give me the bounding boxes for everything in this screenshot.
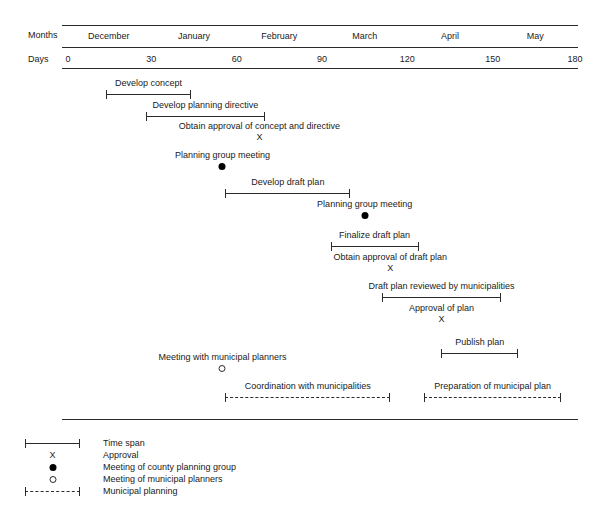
- months-axis-label: Months: [28, 30, 58, 41]
- task-label-approval-of-plan-9: Approval of plan: [409, 303, 474, 314]
- legend-label-time-span: Time span: [103, 438, 145, 449]
- axis-rule-top: [62, 25, 578, 26]
- county-meeting-marker-5[interactable]: [361, 212, 368, 219]
- task-label-planning-group-meeting-5: Planning group meeting: [317, 199, 412, 210]
- approval-marker-2[interactable]: X: [256, 132, 262, 142]
- task-bar-finalize-draft-plan-6[interactable]: [331, 242, 419, 251]
- legend-bar-cap-left: [25, 439, 26, 448]
- month-label-march: March: [352, 31, 377, 42]
- task-label-finalize-draft-plan-6: Finalize draft plan: [339, 230, 410, 241]
- days-axis-label: Days: [28, 54, 49, 65]
- county-meeting-marker-3[interactable]: [219, 163, 226, 170]
- bar-line: [225, 193, 350, 194]
- bar-cap-right: [190, 90, 191, 99]
- task-label-obtain-approval-of-draft-plan-7: Obtain approval of draft plan: [333, 252, 447, 263]
- bar-cap-left: [382, 293, 383, 302]
- day-tick-180: 180: [567, 54, 582, 65]
- bar-line: [146, 116, 265, 117]
- legend-label-municipal-planning: Municipal planning: [103, 486, 178, 497]
- legend-symbol-dashed-time-span: [25, 487, 80, 496]
- municipal-meeting-marker-11[interactable]: [219, 365, 226, 372]
- month-label-january: January: [178, 31, 210, 42]
- legend-bar-cap-left: [25, 487, 26, 496]
- bar-cap-right: [560, 393, 561, 402]
- bar-cap-left: [225, 393, 226, 402]
- legend-label-meeting-of-county-planning-group: Meeting of county planning group: [103, 462, 236, 473]
- bar-cap-left: [424, 393, 425, 402]
- approval-marker-7[interactable]: X: [387, 263, 393, 273]
- axis-rule-middle: [62, 47, 578, 48]
- task-label-develop-concept-0: Develop concept: [115, 78, 182, 89]
- bar-line: [424, 397, 561, 398]
- bar-cap-right: [500, 293, 501, 302]
- month-label-may: May: [527, 31, 544, 42]
- bar-cap-left: [331, 242, 332, 251]
- month-label-april: April: [441, 31, 459, 42]
- task-bar-develop-draft-plan-4[interactable]: [225, 189, 350, 198]
- task-label-coordination-with-municipalities-12: Coordination with municipalities: [245, 381, 371, 392]
- bar-line: [331, 246, 419, 247]
- approval-marker-9[interactable]: X: [438, 314, 444, 324]
- day-tick-0: 0: [65, 54, 70, 65]
- task-bar-publish-plan-10[interactable]: [441, 349, 518, 358]
- month-label-december: December: [88, 31, 130, 42]
- bar-cap-right: [264, 112, 265, 121]
- bar-cap-left: [146, 112, 147, 121]
- task-label-preparation-of-municipal-plan-13: Preparation of municipal plan: [434, 381, 551, 392]
- legend-label-meeting-of-municipal-planners: Meeting of municipal planners: [103, 474, 223, 485]
- bar-cap-left: [106, 90, 107, 99]
- task-bar-develop-concept-0[interactable]: [106, 90, 191, 99]
- legend-symbol-filled-circle: [49, 464, 56, 471]
- legend-bar-cap-right: [79, 439, 80, 448]
- bar-line: [382, 297, 501, 298]
- task-bar-preparation-of-municipal-plan-13[interactable]: [424, 393, 561, 402]
- axis-rule-bottom: [62, 68, 578, 69]
- legend-divider-rule: [62, 419, 578, 420]
- task-bar-draft-plan-reviewed-by-municipalities-8[interactable]: [382, 293, 501, 302]
- bar-cap-left: [441, 349, 442, 358]
- month-label-february: February: [261, 31, 297, 42]
- bar-line: [225, 397, 390, 398]
- day-tick-150: 150: [485, 54, 500, 65]
- task-label-meeting-with-municipal-planners-11: Meeting with municipal planners: [158, 352, 286, 363]
- legend-symbol-open-circle: [49, 476, 56, 483]
- bar-line: [441, 353, 518, 354]
- day-tick-60: 60: [232, 54, 242, 65]
- legend-symbol-time-span: [25, 439, 80, 448]
- day-tick-90: 90: [317, 54, 327, 65]
- bar-cap-right: [389, 393, 390, 402]
- task-label-planning-group-meeting-3: Planning group meeting: [175, 150, 270, 161]
- legend-label-approval: Approval: [103, 450, 139, 461]
- task-label-obtain-approval-of-concept-and-directive-2: Obtain approval of concept and directive: [179, 121, 340, 132]
- task-label-draft-plan-reviewed-by-municipalities-8: Draft plan reviewed by municipalities: [368, 281, 514, 292]
- day-tick-30: 30: [146, 54, 156, 65]
- legend-bar-cap-right: [79, 487, 80, 496]
- day-tick-120: 120: [400, 54, 415, 65]
- bar-cap-right: [349, 189, 350, 198]
- gantt-chart: Months Days DecemberJanuaryFebruaryMarch…: [0, 0, 603, 515]
- bar-cap-right: [418, 242, 419, 251]
- legend-bar-line: [25, 491, 80, 492]
- task-label-develop-draft-plan-4: Develop draft plan: [251, 177, 324, 188]
- legend-bar-line: [25, 443, 80, 444]
- bar-cap-left: [225, 189, 226, 198]
- bar-cap-right: [517, 349, 518, 358]
- task-label-publish-plan-10: Publish plan: [455, 337, 504, 348]
- bar-line: [106, 94, 191, 95]
- task-bar-develop-planning-directive-1[interactable]: [146, 112, 265, 121]
- legend-symbol-approval-x: X: [49, 450, 55, 461]
- task-bar-coordination-with-municipalities-12[interactable]: [225, 393, 390, 402]
- task-label-develop-planning-directive-1: Develop planning directive: [153, 100, 259, 111]
